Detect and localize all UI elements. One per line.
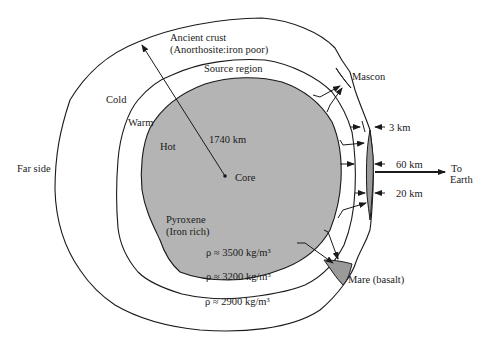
- label-3km: 3 km: [389, 122, 410, 133]
- label-to-earth-2: Earth: [450, 174, 473, 185]
- label-20km: 20 km: [396, 188, 423, 199]
- label-ancient-crust: Ancient crust: [170, 32, 226, 43]
- label-warm: Warm: [128, 117, 153, 128]
- label-iron-rich: (Iron rich): [166, 226, 210, 238]
- 3km-tick: [362, 121, 365, 132]
- label-density-3200: ρ ≈ 3200 kg/m³: [206, 271, 271, 282]
- label-mare: Mare (basalt): [348, 274, 405, 286]
- label-source-region: Source region: [204, 63, 263, 74]
- label-pyroxene: Pyroxene: [166, 214, 206, 225]
- label-hot: Hot: [160, 141, 176, 152]
- label-far-side: Far side: [17, 163, 51, 174]
- label-mascon: Mascon: [352, 71, 386, 82]
- label-to-earth-1: To: [451, 163, 462, 174]
- label-density-3500: ρ ≈ 3500 kg/m³: [206, 247, 271, 258]
- label-radius: 1740 km: [209, 134, 246, 145]
- core-center-dot: [223, 174, 227, 178]
- label-60km: 60 km: [396, 159, 423, 170]
- label-cold: Cold: [106, 94, 127, 105]
- label-core: Core: [235, 172, 256, 183]
- source-feed-arrow-upper: [340, 140, 364, 145]
- label-anorthosite: (Anorthosite:iron poor): [170, 44, 269, 56]
- label-density-2900: ρ ≈ 2900 kg/m³: [205, 296, 270, 307]
- moon-cross-section-diagram: Ancient crust (Anorthosite:iron poor) So…: [0, 0, 490, 341]
